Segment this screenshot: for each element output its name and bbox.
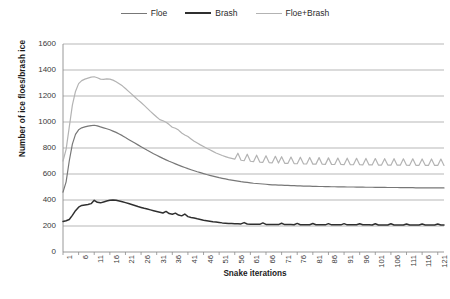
chart-container: Floe Brash Floe+Brash Number of ice floe…	[0, 0, 450, 299]
x-tick-label: 56	[238, 255, 246, 263]
x-tick-label: 46	[207, 255, 215, 263]
x-tick-label: 16	[113, 255, 121, 263]
x-axis-title: Snake iterations	[60, 269, 450, 278]
x-tick-label: 36	[175, 255, 183, 263]
x-tick-label: 91	[347, 255, 355, 263]
axis-lines	[63, 44, 444, 255]
x-tick-label: 1	[66, 255, 74, 259]
x-tick-label: 106	[394, 255, 402, 268]
x-tick-label: 81	[316, 255, 324, 263]
x-tick-label: 86	[331, 255, 339, 263]
series-line-floe-brash	[63, 77, 444, 166]
x-tick-label: 71	[285, 255, 293, 263]
x-tick-label: 111	[410, 255, 418, 267]
x-tick-label: 6	[82, 255, 90, 259]
x-tick-label: 21	[128, 255, 136, 263]
x-tick-label: 26	[144, 255, 152, 263]
x-tick-label: 41	[191, 255, 199, 263]
x-tick-label: 31	[160, 255, 168, 263]
data-series	[63, 77, 444, 225]
x-tick-label: 51	[222, 255, 230, 263]
x-tick-label: 116	[425, 255, 433, 267]
x-tick-label: 101	[378, 255, 386, 268]
x-tick-label: 121	[441, 255, 449, 268]
x-tick-label: 66	[269, 255, 277, 263]
x-tick-label: 96	[363, 255, 371, 263]
x-tick-label: 61	[253, 255, 261, 263]
x-tick-label: 76	[300, 255, 308, 263]
x-tick-label: 11	[97, 255, 105, 263]
series-line-brash	[63, 200, 444, 225]
series-line-floe	[63, 125, 444, 192]
